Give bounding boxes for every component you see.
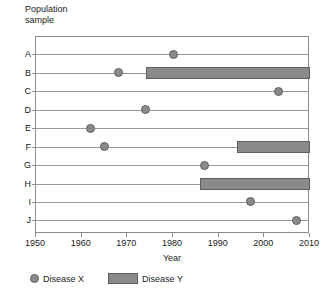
disease-y-bar [146,67,310,79]
x-axis-tick-label: 1960 [71,238,91,248]
x-axis-tick-label: 1980 [162,238,182,248]
x-axis-tick-label: 1970 [116,238,136,248]
plot-area: ABCDEFGHIJ [35,36,309,233]
x-axis: 1950196019701980199020002010 [35,233,309,239]
disease-x-marker [100,142,109,151]
x-axis-tick-label: 2000 [253,238,273,248]
disease-x-marker [292,216,301,225]
x-axis-tick-label: 1950 [25,238,45,248]
disease-x-marker [169,50,178,59]
row-line [36,220,308,221]
legend-bar-icon [108,273,138,284]
y-axis-tick [32,165,36,166]
x-axis-tick [218,233,219,237]
x-axis-title: Year [35,253,309,263]
y-axis-tick-label: F [26,142,32,152]
y-axis-tick-label: D [25,105,32,115]
y-axis-tick [32,184,36,185]
disease-x-marker [200,161,209,170]
y-axis-tick [32,147,36,148]
row-line [36,91,308,92]
y-axis-tick [32,128,36,129]
y-axis-tick-label: C [25,86,32,96]
disease-y-bar [200,178,310,190]
legend-item: Disease X [30,274,84,284]
x-axis-tick [172,233,173,237]
row-line [36,202,308,203]
x-axis-tick-label: 1990 [208,238,228,248]
disease-x-marker [86,124,95,133]
row-line [36,128,308,129]
y-axis-tick [32,202,36,203]
x-axis-tick [309,233,310,237]
x-axis-tick [126,233,127,237]
y-axis-tick [32,73,36,74]
legend-circle-icon [30,274,39,283]
legend-label: Disease Y [142,274,183,284]
y-axis-tick [32,54,36,55]
y-axis-tick-label: G [24,160,31,170]
x-axis-tick [263,233,264,237]
chart-legend: Disease XDisease Y [30,273,183,284]
y-axis-tick [32,220,36,221]
y-axis-title: Population sample [25,4,68,25]
disease-x-marker [274,87,283,96]
y-axis-tick [32,91,36,92]
y-axis-tick-label: I [28,197,31,207]
legend-item: Disease Y [108,273,183,284]
y-axis-tick-label: H [25,179,32,189]
x-axis-tick [81,233,82,237]
disease-x-marker [114,68,123,77]
y-axis-tick-label: J [27,215,32,225]
x-axis-tick-label: 2010 [299,238,319,248]
y-axis-tick-label: E [25,123,31,133]
legend-label: Disease X [43,274,84,284]
disease-x-marker [141,105,150,114]
chart-figure: Population sample ABCDEFGHIJ 19501960197… [0,0,327,298]
y-axis-tick-label: B [25,68,31,78]
x-axis-tick [35,233,36,237]
row-line [36,110,308,111]
row-line [36,165,308,166]
y-axis-tick-label: A [25,49,31,59]
disease-x-marker [246,197,255,206]
y-axis-tick [32,110,36,111]
disease-y-bar [237,141,310,153]
